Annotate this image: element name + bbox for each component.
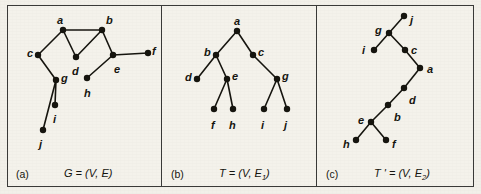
vertex-label-i: i bbox=[362, 45, 365, 56]
vertex-label-d: d bbox=[185, 72, 192, 83]
vertex-label-b: b bbox=[106, 15, 113, 26]
vertex-g bbox=[386, 30, 392, 36]
vertex-i bbox=[52, 102, 58, 108]
vertex-e bbox=[368, 119, 374, 125]
vertex-label-b: b bbox=[204, 47, 211, 58]
vertex-label-i: i bbox=[261, 120, 264, 131]
vertex-c bbox=[35, 52, 41, 58]
vertex-label-d: d bbox=[409, 95, 416, 106]
edge-b-e bbox=[102, 30, 113, 55]
vertex-label-c: c bbox=[411, 45, 417, 56]
vertex-i bbox=[371, 47, 377, 53]
vertex-h bbox=[353, 137, 359, 143]
panel-a-caption: G = (V, E) bbox=[64, 167, 112, 179]
vertex-h bbox=[230, 106, 236, 112]
edge-g-i bbox=[264, 79, 277, 109]
edge-a-c bbox=[38, 30, 63, 55]
vertex-a bbox=[417, 65, 423, 71]
vertex-f bbox=[145, 50, 151, 56]
panel-a-tag: (a) bbox=[16, 168, 29, 180]
edge-a-d bbox=[63, 30, 76, 57]
vertex-label-h: h bbox=[229, 120, 236, 131]
edge-c-g bbox=[38, 55, 56, 80]
vertex-label-g: g bbox=[282, 71, 289, 82]
vertex-label-e: e bbox=[114, 64, 120, 75]
vertex-label-h: h bbox=[84, 88, 91, 99]
vertex-j bbox=[284, 106, 290, 112]
vertex-c bbox=[402, 47, 408, 53]
vertex-a bbox=[234, 28, 240, 34]
vertex-d bbox=[194, 76, 200, 82]
panel-b-graph bbox=[194, 28, 290, 112]
vertex-label-a: a bbox=[234, 16, 240, 27]
vertex-d bbox=[73, 54, 79, 60]
vertex-i bbox=[261, 106, 267, 112]
vertex-label-j: j bbox=[284, 120, 287, 131]
vertex-label-g: g bbox=[61, 73, 68, 84]
edge-a-d bbox=[404, 68, 420, 88]
vertex-d bbox=[401, 85, 407, 91]
edge-b-d bbox=[197, 55, 216, 79]
panel-b-caption: T = (V, E1) bbox=[219, 167, 270, 182]
vertex-f bbox=[383, 137, 389, 143]
vertex-b bbox=[385, 102, 391, 108]
vertex-label-f: f bbox=[392, 139, 396, 150]
edge-b-e bbox=[371, 105, 388, 122]
edge-e-h bbox=[87, 55, 113, 78]
vertex-e bbox=[224, 76, 230, 82]
edge-g-j bbox=[277, 79, 287, 109]
edge-e-h bbox=[227, 79, 233, 109]
vertex-label-e: e bbox=[232, 71, 238, 82]
vertex-c bbox=[250, 52, 256, 58]
vertex-label-a: a bbox=[427, 64, 433, 75]
vertex-g bbox=[53, 77, 59, 83]
edge-a-c bbox=[237, 31, 253, 55]
vertex-b bbox=[99, 27, 105, 33]
edge-e-f bbox=[113, 53, 148, 55]
edge-c-g bbox=[253, 55, 277, 79]
vertex-label-h: h bbox=[343, 139, 350, 150]
vertex-g bbox=[274, 76, 280, 82]
vertex-label-c: c bbox=[258, 47, 264, 58]
vertex-label-f: f bbox=[152, 46, 156, 57]
edge-b-d bbox=[76, 30, 102, 57]
vertex-label-a: a bbox=[57, 15, 63, 26]
vertex-label-c: c bbox=[27, 48, 33, 59]
vertex-j bbox=[401, 13, 407, 19]
vertex-f bbox=[211, 106, 217, 112]
edge-b-e bbox=[216, 55, 227, 79]
vertex-a bbox=[60, 27, 66, 33]
vertex-j bbox=[40, 127, 46, 133]
edge-a-b bbox=[216, 31, 237, 55]
vertex-label-g: g bbox=[375, 25, 382, 36]
vertex-b bbox=[213, 52, 219, 58]
vertex-label-j: j bbox=[39, 139, 42, 150]
edge-j-g bbox=[389, 16, 404, 33]
graph-figure: abcdefghij(a)G = (V, E)abcdegfhij(b)T = … bbox=[0, 0, 481, 194]
edge-d-b bbox=[388, 88, 404, 105]
vertex-label-j: j bbox=[410, 15, 413, 26]
edge-e-f bbox=[371, 122, 386, 140]
panel-b-tag: (b) bbox=[171, 168, 184, 180]
vertex-label-i: i bbox=[53, 114, 56, 125]
panel-c-caption: T ' = (V, E2) bbox=[374, 167, 430, 182]
vertex-e bbox=[110, 52, 116, 58]
vertex-label-d: d bbox=[72, 66, 79, 77]
panel-c-tag: (c) bbox=[326, 168, 338, 180]
edge-e-f bbox=[214, 79, 227, 109]
vertex-label-b: b bbox=[394, 112, 401, 123]
edge-g-c bbox=[389, 33, 405, 50]
vertex-h bbox=[84, 75, 90, 81]
vertex-label-e: e bbox=[358, 115, 364, 126]
vertex-label-f: f bbox=[211, 120, 215, 131]
